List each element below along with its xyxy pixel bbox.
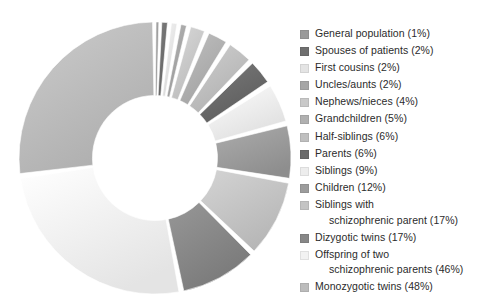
legend-swatch-icon: [300, 81, 309, 90]
legend-item[interactable]: Nephews/nieces (4%): [300, 94, 479, 110]
doughnut-svg: [0, 0, 300, 296]
legend-item[interactable]: Siblings withschizophrenic parent (17%): [300, 197, 479, 228]
legend-label: Offspring of twoschizophrenic parents (4…: [315, 247, 463, 278]
doughnut-slice[interactable]: [155, 22, 158, 95]
legend-label: First cousins (2%): [315, 60, 400, 76]
legend-label: Children (12%): [315, 180, 386, 196]
legend-item[interactable]: Grandchildren (5%): [300, 111, 479, 127]
legend-swatch-icon: [300, 150, 309, 159]
legend-label: Nephews/nieces (4%): [315, 94, 418, 110]
doughnut-slices: [19, 22, 291, 294]
legend-swatch-icon: [300, 115, 309, 124]
legend-label: Dizygotic twins (17%): [315, 230, 416, 246]
legend-item[interactable]: Spouses of patients (2%): [300, 43, 479, 59]
doughnut-slice[interactable]: [21, 167, 179, 294]
legend-label: General population (1%): [315, 26, 430, 42]
legend-label: Grandchildren (5%): [315, 111, 407, 127]
legend-item[interactable]: Parents (6%): [300, 146, 479, 162]
legend-label: Spouses of patients (2%): [315, 43, 434, 59]
legend-swatch-icon: [300, 30, 309, 39]
legend-label: Siblings withschizophrenic parent (17%): [315, 197, 458, 228]
legend-swatch-icon: [300, 234, 309, 243]
legend-item[interactable]: Children (12%): [300, 180, 479, 196]
doughnut-slice[interactable]: [19, 22, 154, 174]
doughnut-chart: General population (1%)Spouses of patien…: [0, 0, 479, 296]
legend-swatch-icon: [300, 47, 309, 56]
legend-label: Half-siblings (6%): [315, 129, 398, 145]
legend-swatch-icon: [300, 98, 309, 107]
legend-label-continuation: schizophrenic parents (46%): [315, 262, 463, 278]
legend-label: Siblings (9%): [315, 163, 378, 179]
legend-swatch-icon: [300, 201, 309, 210]
legend-item[interactable]: Half-siblings (6%): [300, 129, 479, 145]
legend-swatch-icon: [300, 283, 309, 292]
legend-item[interactable]: Siblings (9%): [300, 163, 479, 179]
legend-swatch-icon: [300, 133, 309, 142]
legend-item[interactable]: First cousins (2%): [300, 60, 479, 76]
legend-item[interactable]: Monozygotic twins (48%): [300, 279, 479, 295]
legend-swatch-icon: [300, 167, 309, 176]
legend-swatch-icon: [300, 184, 309, 193]
chart-legend: General population (1%)Spouses of patien…: [300, 26, 479, 288]
legend-label-continuation: schizophrenic parent (17%): [315, 213, 458, 229]
legend-swatch-icon: [300, 251, 309, 260]
doughnut-plot-area: [0, 0, 300, 296]
legend-label: Uncles/aunts (2%): [315, 77, 402, 93]
legend-label: Monozygotic twins (48%): [315, 279, 433, 295]
legend-item[interactable]: Uncles/aunts (2%): [300, 77, 479, 93]
legend-item[interactable]: General population (1%): [300, 26, 479, 42]
legend-item[interactable]: Dizygotic twins (17%): [300, 230, 479, 246]
legend-swatch-icon: [300, 64, 309, 73]
legend-label: Parents (6%): [315, 146, 377, 162]
legend-item[interactable]: Offspring of twoschizophrenic parents (4…: [300, 247, 479, 278]
